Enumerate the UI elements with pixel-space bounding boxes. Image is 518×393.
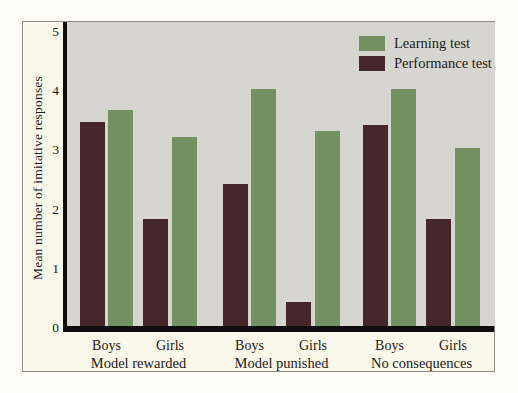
y-tick-label: 4 — [23, 83, 61, 99]
subgroup-label: Girls — [299, 338, 327, 354]
bar-model-rewarded-boys-performance — [80, 122, 105, 326]
bar-model-punished-girls-learning — [315, 131, 340, 326]
bar-no-consequences-boys-performance — [363, 125, 388, 326]
y-tick-label: 2 — [23, 202, 61, 218]
subgroup-label: Boys — [235, 338, 264, 354]
group-label: No consequences — [371, 355, 472, 372]
subgroup-label: Girls — [439, 338, 467, 354]
x-axis-line — [63, 326, 494, 332]
group-label: Model punished — [235, 355, 329, 372]
y-tick-label: 1 — [23, 261, 61, 277]
figure: Mean number of imitative responses 01234… — [22, 21, 495, 372]
legend-swatch — [359, 36, 385, 51]
bar-no-consequences-boys-learning — [391, 89, 416, 326]
legend-label: Performance test — [394, 55, 492, 72]
subgroup-label: Girls — [156, 338, 184, 354]
legend-swatch — [359, 56, 385, 71]
legend-item: Learning test — [359, 35, 492, 52]
y-tick-label: 0 — [23, 320, 61, 336]
group-label: Model rewarded — [91, 355, 186, 372]
legend: Learning testPerformance test — [359, 35, 492, 75]
bar-model-rewarded-girls-performance — [143, 219, 168, 326]
subgroup-label: Boys — [375, 338, 404, 354]
bar-model-rewarded-girls-learning — [172, 137, 197, 326]
bar-model-punished-boys-learning — [251, 89, 276, 326]
y-axis-line — [63, 22, 67, 332]
y-tick-label: 3 — [23, 142, 61, 158]
bar-no-consequences-girls-learning — [455, 148, 480, 326]
bar-model-rewarded-boys-learning — [108, 110, 133, 326]
legend-label: Learning test — [394, 35, 470, 52]
y-tick-label: 5 — [23, 24, 61, 40]
bar-no-consequences-girls-performance — [426, 219, 451, 326]
bar-model-punished-boys-performance — [223, 184, 248, 326]
bar-model-punished-girls-performance — [286, 302, 311, 326]
legend-item: Performance test — [359, 55, 492, 72]
subgroup-label: Boys — [92, 338, 121, 354]
